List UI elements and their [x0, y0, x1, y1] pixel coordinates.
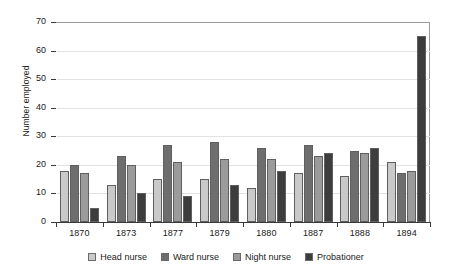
y-tick-label: 60 — [0, 45, 46, 55]
y-tick-label: 70 — [0, 16, 46, 26]
legend-item[interactable]: Head nurse — [88, 252, 147, 262]
legend-item[interactable]: Probationer — [305, 252, 364, 262]
x-tick-mark — [383, 222, 384, 227]
legend-swatch-icon — [233, 253, 241, 261]
y-tick-label: 40 — [0, 102, 46, 112]
x-tick-mark — [290, 222, 291, 227]
bar — [200, 179, 209, 222]
bar — [324, 153, 333, 222]
bar-group — [337, 22, 384, 222]
bar-group — [56, 22, 103, 222]
bar — [294, 173, 303, 222]
bar — [360, 153, 369, 222]
bar — [210, 142, 219, 222]
x-tick-mark — [56, 222, 57, 227]
bar — [163, 145, 172, 222]
legend-label: Night nurse — [245, 252, 291, 262]
x-tick-label: 1894 — [377, 228, 437, 238]
bar — [60, 171, 69, 222]
bar — [70, 165, 79, 222]
legend-swatch-icon — [161, 253, 169, 261]
bar — [257, 148, 266, 222]
bar-group — [196, 22, 243, 222]
bar-group — [243, 22, 290, 222]
bar — [137, 193, 146, 222]
bar — [370, 148, 379, 222]
bar — [277, 171, 286, 222]
bar — [183, 196, 192, 222]
bar-group — [383, 22, 430, 222]
legend-item[interactable]: Night nurse — [233, 252, 291, 262]
bar-chart: Number employed 010203040506070 18701873… — [0, 0, 452, 276]
x-tick-mark — [196, 222, 197, 227]
y-tick-label: 10 — [0, 187, 46, 197]
chart-legend: Head nurseWard nurseNight nurseProbation… — [0, 252, 452, 262]
legend-item[interactable]: Ward nurse — [161, 252, 219, 262]
bar — [117, 156, 126, 222]
bar — [173, 162, 182, 222]
bar — [127, 165, 136, 222]
bar — [220, 159, 229, 222]
bar — [80, 173, 89, 222]
legend-label: Probationer — [317, 252, 364, 262]
bar — [350, 151, 359, 222]
y-tick-label: 0 — [0, 216, 46, 226]
bar — [314, 156, 323, 222]
y-tick-label: 30 — [0, 130, 46, 140]
bar-group — [150, 22, 197, 222]
x-tick-mark — [150, 222, 151, 227]
bar — [304, 145, 313, 222]
bar — [407, 171, 416, 222]
bar-group — [103, 22, 150, 222]
y-tick-label: 20 — [0, 159, 46, 169]
bar — [397, 173, 406, 222]
bar — [387, 162, 396, 222]
bar — [417, 36, 426, 222]
x-tick-mark — [243, 222, 244, 227]
legend-swatch-icon — [88, 253, 96, 261]
x-tick-mark — [103, 222, 104, 227]
bar-group — [290, 22, 337, 222]
legend-label: Ward nurse — [173, 252, 219, 262]
x-tick-mark — [337, 222, 338, 227]
bar — [107, 185, 116, 222]
x-tick-mark — [430, 222, 431, 227]
legend-label: Head nurse — [100, 252, 147, 262]
bar — [90, 208, 99, 222]
bar — [153, 179, 162, 222]
bar — [267, 159, 276, 222]
legend-swatch-icon — [305, 253, 313, 261]
bar — [230, 185, 239, 222]
y-tick-label: 50 — [0, 73, 46, 83]
bar — [247, 188, 256, 222]
bar — [340, 176, 349, 222]
